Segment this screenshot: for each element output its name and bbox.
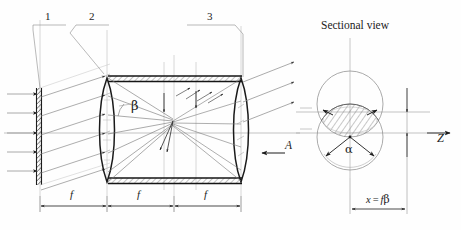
callout-label-1: 1 bbox=[45, 11, 51, 22]
collimated-input-beam-extension bbox=[105, 74, 110, 169]
aperture-label: A bbox=[285, 140, 292, 152]
x-formula-label: x=fβ bbox=[366, 194, 390, 206]
main-optical-system bbox=[4, 20, 300, 212]
callout-label-2: 2 bbox=[89, 11, 95, 22]
focal-length-label-1: f bbox=[70, 189, 73, 200]
sectional-view-title: Sectional view bbox=[321, 20, 389, 32]
callout-label-3: 3 bbox=[207, 11, 213, 22]
tube-wall-bottom bbox=[108, 178, 242, 184]
z-axis-label: Z bbox=[437, 132, 444, 145]
optical-ray-diagram-figure: 1 2 3 β α A Z Sectional view f f f x=fβ bbox=[0, 0, 461, 230]
focal-length-label-2: f bbox=[137, 189, 140, 200]
alpha-angle-label: α bbox=[345, 144, 353, 156]
beta-angle-indicator bbox=[118, 104, 131, 116]
outgoing-rays bbox=[243, 62, 294, 122]
focal-point-marker bbox=[160, 121, 173, 152]
formula-equals: = bbox=[371, 194, 381, 205]
formula-angle: β bbox=[384, 193, 390, 205]
sectional-view bbox=[296, 38, 450, 214]
beta-angle-label: β bbox=[131, 99, 139, 112]
object-plane bbox=[37, 88, 42, 185]
incoming-rays bbox=[7, 94, 37, 171]
formula-variable: x bbox=[366, 194, 371, 205]
tube-wall-top bbox=[108, 76, 242, 82]
converging-rays bbox=[108, 78, 173, 182]
sectional-left-ticks bbox=[300, 108, 312, 129]
focal-length-label-3: f bbox=[204, 189, 207, 200]
field-height-arrows bbox=[164, 91, 196, 112]
diverging-rays bbox=[173, 79, 241, 181]
internal-wall-rays bbox=[176, 88, 223, 103]
